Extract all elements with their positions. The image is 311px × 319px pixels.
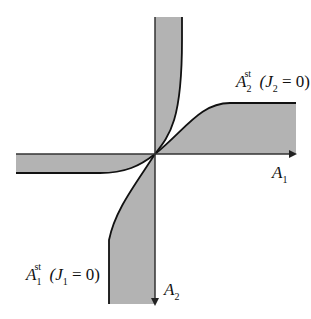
- label-a2-st-sub: 2: [246, 83, 251, 94]
- label-a2-st: A2st (J2 = 0): [236, 72, 310, 92]
- shaded-regions: [16, 17, 296, 304]
- label-axis-a2-sub: 2: [174, 291, 179, 302]
- label-a1-st-sub: 1: [36, 276, 41, 287]
- label-axis-a1-sub: 1: [282, 174, 287, 185]
- label-axis-a2: A2: [164, 280, 179, 300]
- label-axis-a1-main: A: [272, 163, 282, 182]
- label-a1-st-cond: (J: [50, 265, 63, 284]
- label-a2-st-cond: (J: [260, 72, 273, 91]
- label-a1-st: A1st (J1 = 0): [26, 265, 100, 285]
- label-a1-st-cond-sub: 1: [63, 276, 68, 287]
- label-a2-st-cond-sub: 2: [273, 83, 278, 94]
- label-axis-a2-main: A: [164, 280, 174, 299]
- label-a2-st-cond-rest: = 0): [278, 72, 310, 91]
- label-a1-st-sup: st: [34, 261, 41, 272]
- diagram-canvas: A2st (J2 = 0) A1 A1st (J1 = 0) A2: [0, 0, 311, 319]
- label-a1-st-cond-rest: = 0): [68, 265, 100, 284]
- label-a2-st-sup: st: [244, 68, 251, 79]
- label-axis-a1: A1: [272, 163, 287, 183]
